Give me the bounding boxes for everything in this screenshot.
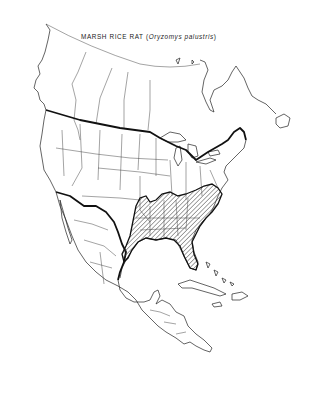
mexico-pacific-coast bbox=[56, 192, 128, 292]
hudson-bay-outline bbox=[200, 60, 236, 112]
bc-alberta-boundary bbox=[74, 120, 80, 140]
arctic-boundary-line bbox=[46, 24, 200, 67]
newfoundland bbox=[276, 114, 290, 128]
range-map: MARSH RICE RAT (Oryzomys palustris) bbox=[0, 0, 321, 393]
mexico-state-lines bbox=[74, 220, 116, 284]
baffin-fragments bbox=[176, 58, 194, 64]
hispaniola bbox=[232, 292, 248, 300]
manitoba-ontario-boundary bbox=[148, 80, 150, 130]
baja-california bbox=[60, 200, 72, 244]
alberta-sask-boundary bbox=[96, 68, 112, 124]
central-america-borders bbox=[150, 310, 186, 334]
mexico-gulf-coast bbox=[118, 280, 160, 304]
alaska-outline bbox=[34, 24, 50, 110]
yukon-nwt-boundary bbox=[72, 52, 86, 120]
jamaica bbox=[212, 302, 222, 307]
bahamas bbox=[206, 262, 234, 286]
labrador-coast bbox=[236, 66, 276, 114]
us-west-coast bbox=[40, 110, 56, 192]
central-america bbox=[128, 292, 212, 352]
north-america-map bbox=[0, 0, 321, 393]
species-range-area bbox=[122, 184, 222, 270]
lake-michigan bbox=[174, 146, 182, 166]
canada-us-border bbox=[46, 110, 246, 160]
sask-manitoba-boundary bbox=[124, 72, 128, 128]
cuba bbox=[178, 280, 226, 296]
